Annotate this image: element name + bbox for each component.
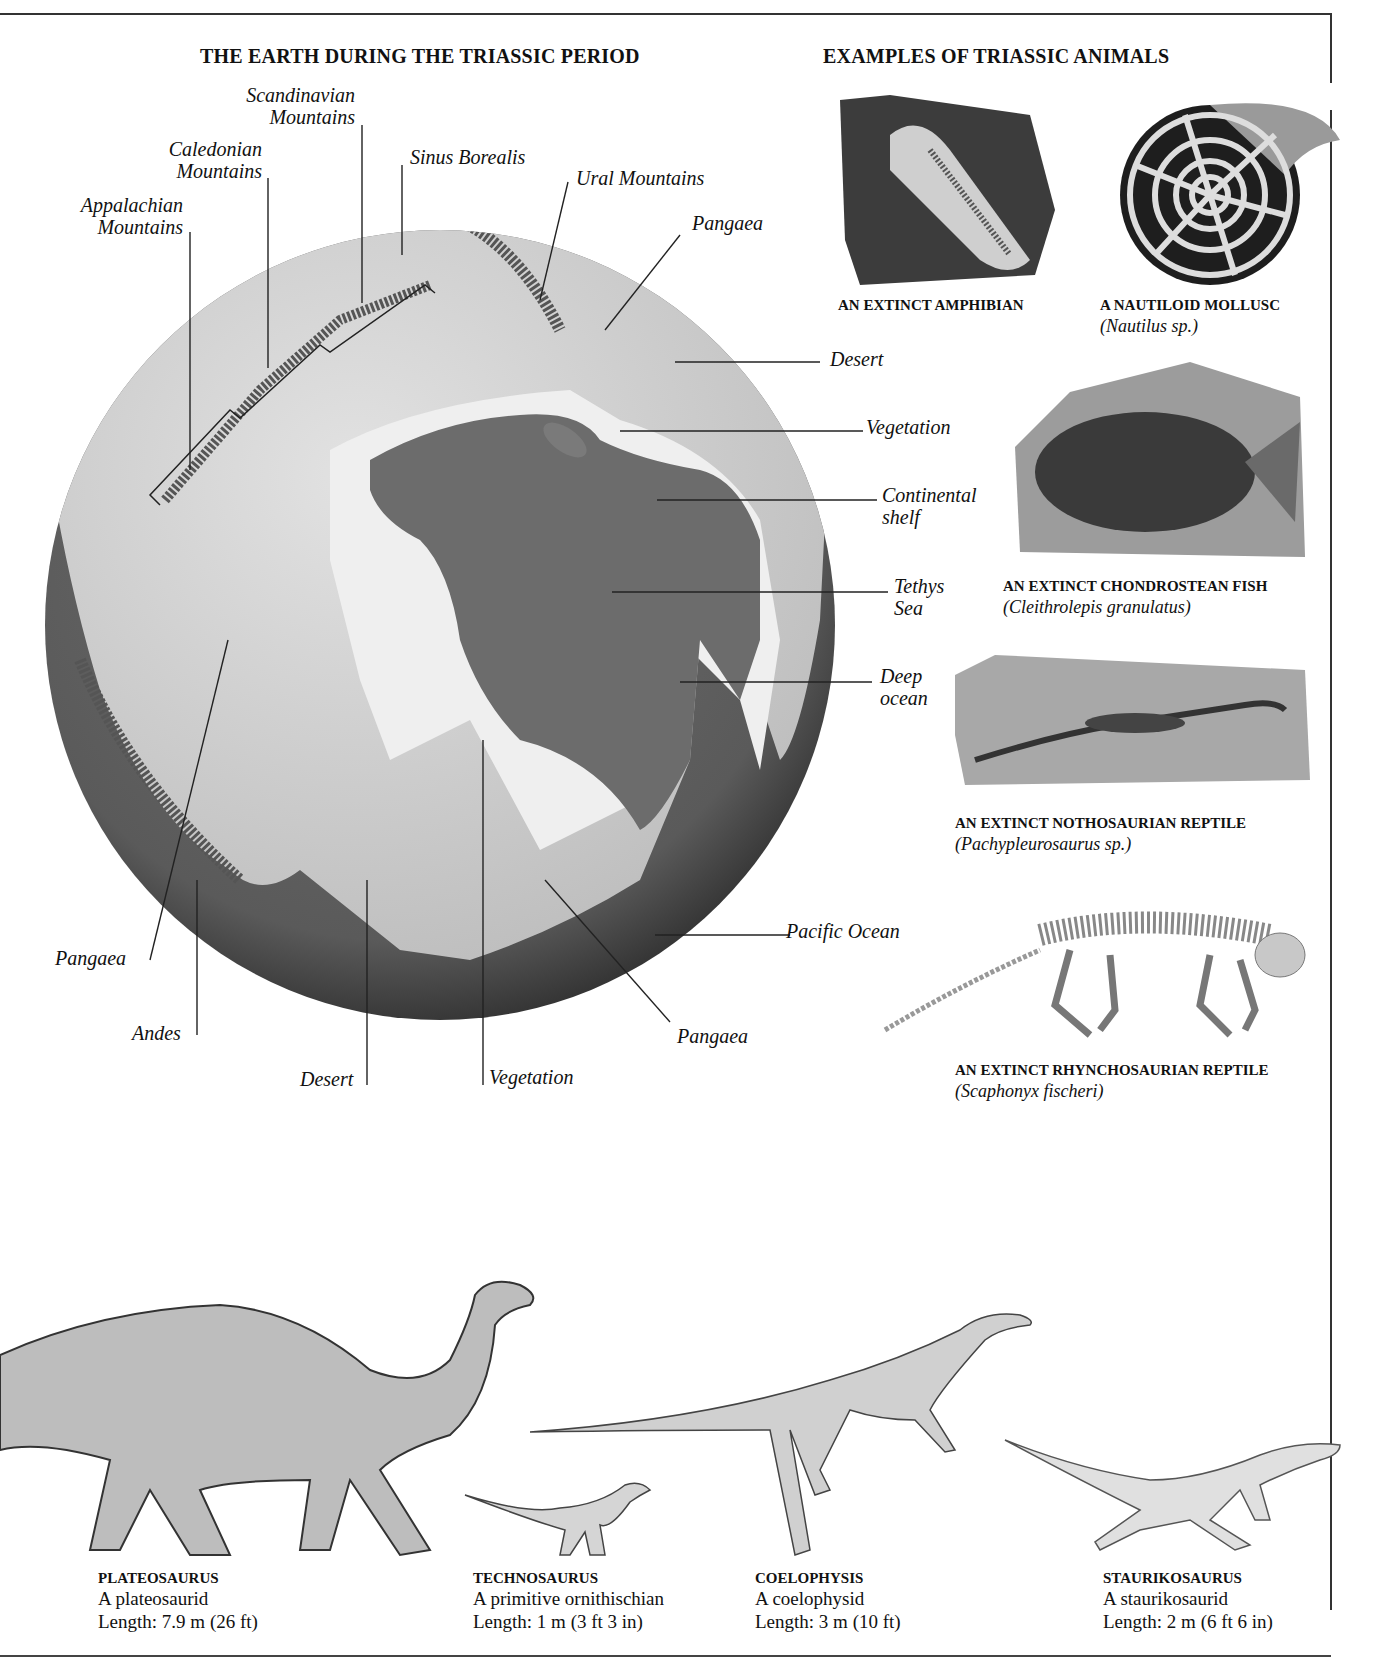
species-nautiloid: (Nautilus sp.) [1100,316,1198,337]
dino-caption-coelophysis: COELOPHYSIS A coelophysid Length: 3 m (1… [755,1570,901,1633]
caption-chondrostean: AN EXTINCT CHONDROSTEAN FISH [1003,578,1267,595]
caption-amphibian: AN EXTINCT AMPHIBIAN [838,297,1024,314]
label-scandinavian-mountains: ScandinavianMountains [200,84,355,128]
label-pangaea-south: Pangaea [677,1025,748,1047]
species-nothosaur: (Pachypleurosaurus sp.) [955,834,1131,855]
caption-nothosaur: AN EXTINCT NOTHOSAURIAN REPTILE [955,815,1246,832]
dino-caption-technosaurus: TECHNOSAURUS A primitive ornithischian L… [473,1570,664,1633]
label-vegetation-east: Vegetation [866,416,950,438]
chondrostean-fish-image [1015,362,1305,562]
dinosaur-illustrations [0,1280,1375,1570]
page-border-bottom [0,1655,1331,1657]
label-caledonian-mountains: CaledonianMountains [115,138,262,182]
amphibian-fossil-image [830,90,1060,290]
label-sinus-borealis: Sinus Borealis [410,146,525,168]
label-deep-ocean: Deepocean [880,665,928,709]
label-ural-mountains: Ural Mountains [576,167,704,189]
staurikosaurus-illustration [1005,1440,1340,1550]
label-vegetation-south: Vegetation [489,1066,573,1088]
technosaurus-illustration [465,1483,650,1555]
nautilus-shell-image [1115,85,1345,295]
label-desert-south: Desert [300,1068,353,1090]
label-desert-east: Desert [830,348,883,370]
dino-caption-staurikosaurus: STAURIKOSAURUS A staurikosaurid Length: … [1103,1570,1273,1633]
species-chondrostean: (Cleithrolepis granulatus) [1003,597,1191,618]
nothosaur-fossil-image [955,655,1310,790]
label-andes: Andes [132,1022,181,1044]
dino-caption-plateosaurus: PLATEOSAURUS A plateosaurid Length: 7.9 … [98,1570,258,1633]
label-continental-shelf: Continentalshelf [882,484,976,528]
plateosaurus-illustration [0,1282,533,1555]
label-pangaea-north: Pangaea [692,212,763,234]
label-pangaea-west: Pangaea [55,947,126,969]
caption-nautiloid: A NAUTILOID MOLLUSC [1100,297,1280,314]
rhynchosaur-skeleton-image [880,905,1310,1045]
caption-rhynchosaur: AN EXTINCT RHYNCHOSAURIAN REPTILE [955,1062,1269,1079]
species-rhynchosaur: (Scaphonyx fischeri) [955,1081,1103,1102]
label-appalachian-mountains: AppalachianMountains [40,194,183,238]
label-tethys-sea: TethysSea [894,575,944,619]
